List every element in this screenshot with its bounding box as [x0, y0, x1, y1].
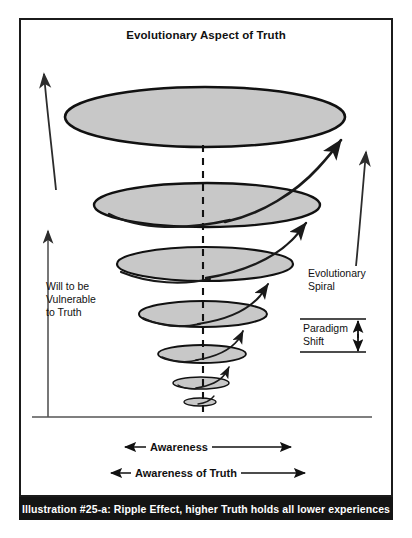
- disc-3: [117, 247, 293, 281]
- evolutionary-spiral-callout-arrow: [356, 152, 366, 266]
- awareness-label: Awareness: [146, 441, 212, 453]
- spiral-label-line-2: Spiral: [308, 280, 366, 293]
- will-to-be-vulnerable-label: Will to be Vulnerable to Truth: [46, 280, 96, 319]
- awareness-of-truth-label: Awareness of Truth: [131, 467, 241, 479]
- paradigm-shift-label: Paradigm Shift: [303, 322, 348, 348]
- figure-caption: Illustration #25-a: Ripple Effect, highe…: [19, 497, 393, 520]
- illustration-figure: Evolutionary Aspect of Truth: [0, 0, 412, 538]
- paradigm-label-line-2: Shift: [303, 335, 348, 348]
- spiral-label-line-1: Evolutionary: [308, 267, 366, 280]
- will-label-line-3: to Truth: [46, 306, 96, 319]
- paradigm-label-line-1: Paradigm: [303, 322, 348, 335]
- will-to-be-vulnerable-arrow: [44, 74, 56, 190]
- will-label-line-1: Will to be: [46, 280, 96, 293]
- disc-1: [65, 87, 345, 147]
- will-label-line-2: Vulnerable: [46, 293, 96, 306]
- evolutionary-spiral-label: Evolutionary Spiral: [308, 267, 366, 293]
